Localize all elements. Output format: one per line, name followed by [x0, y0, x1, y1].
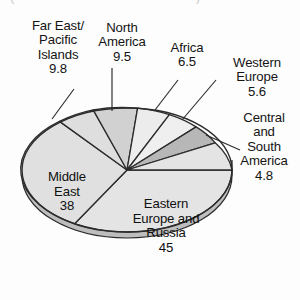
label-north-america-text: North America [98, 20, 145, 50]
label-africa: Africa 6.5 [158, 26, 216, 84]
leader-far-east [52, 89, 74, 119]
label-africa-value: 6.5 [158, 55, 216, 70]
label-far-east-text: Far East/ Pacific Islands [32, 18, 84, 62]
label-middle-east-value: 38 [60, 198, 74, 213]
leader-africa [155, 80, 178, 110]
label-eastern-europe-russia-text: Eastern Europe and Russia [133, 196, 200, 241]
label-central-south-america: Central and South America 4.8 [232, 96, 296, 198]
label-north-america: North America 9.5 [83, 6, 161, 79]
leader-western-europe [182, 80, 216, 120]
label-eastern-europe-russia-value: 45 [159, 240, 173, 255]
label-africa-text: Africa [171, 40, 204, 55]
label-central-south-america-text: Central and South America [240, 110, 287, 169]
label-middle-east-text: Middle East [48, 169, 86, 199]
label-middle-east: Middle East 38 [28, 155, 106, 214]
label-central-south-america-value: 4.8 [232, 169, 296, 184]
figure-canvas: ( ) [0, 0, 300, 300]
label-western-europe-text: Western Europe [233, 55, 281, 85]
label-north-america-value: 9.5 [83, 50, 161, 65]
label-eastern-europe-russia: Eastern Europe and Russia 45 [118, 182, 214, 256]
